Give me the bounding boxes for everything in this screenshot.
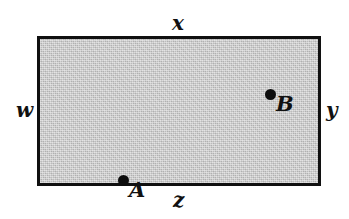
rectangle-shape: A B [37, 36, 321, 186]
edge-label-bottom: z [173, 190, 184, 210]
edge-label-left: w [16, 100, 33, 120]
point-a-marker [118, 175, 129, 186]
point-b-marker [265, 89, 276, 100]
edge-label-right: y [326, 100, 338, 120]
point-b-label: B [276, 93, 294, 114]
figure-canvas: A B x z w y [0, 0, 349, 219]
edge-label-top: x [172, 13, 184, 33]
point-a-label: A [129, 179, 145, 200]
